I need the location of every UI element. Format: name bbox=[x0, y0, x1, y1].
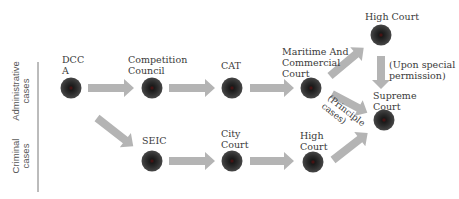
label-supreme-court: Supreme Court bbox=[373, 90, 417, 112]
arrow-competition-to-cat bbox=[169, 79, 215, 97]
label-cat: CAT bbox=[221, 60, 241, 71]
label-seic: SEIC bbox=[142, 135, 166, 146]
label-maritime: Maritime And Commercial Court bbox=[282, 46, 349, 79]
arrow-seic-to-city bbox=[169, 152, 215, 170]
node-dcca bbox=[61, 78, 82, 99]
label-high-court-top: High Court bbox=[365, 11, 419, 22]
label-dcca: DCC A bbox=[62, 54, 84, 76]
arrow-dcca-to-competition bbox=[88, 79, 134, 97]
row-label-administrative: Administrative cases bbox=[11, 55, 31, 127]
arrow-dcca-to-seic bbox=[91, 111, 138, 154]
node-competition-council bbox=[142, 78, 163, 99]
label-upon-special-permission: (Upon special permission) bbox=[389, 59, 455, 81]
label-high-court-bottom: High Court bbox=[300, 130, 327, 152]
node-seic bbox=[142, 151, 163, 172]
node-cat bbox=[222, 78, 243, 99]
label-competition-council: Competition Council bbox=[128, 54, 187, 76]
label-city-court: City Court bbox=[221, 128, 248, 150]
appeal-flow-diagram: Administrative cases Criminal cases DCC … bbox=[0, 0, 459, 199]
node-supreme-court bbox=[374, 110, 395, 131]
arrow-cat-to-maritime bbox=[250, 79, 294, 97]
arrow-city-to-highcourt bbox=[250, 152, 294, 170]
node-high-court-bottom bbox=[303, 152, 324, 173]
arrow-highcourt-to-supreme-special bbox=[372, 56, 390, 89]
node-high-court-top bbox=[371, 25, 392, 46]
node-city-court bbox=[222, 151, 243, 172]
node-maritime bbox=[301, 78, 322, 99]
row-label-criminal: Criminal cases bbox=[11, 136, 31, 176]
